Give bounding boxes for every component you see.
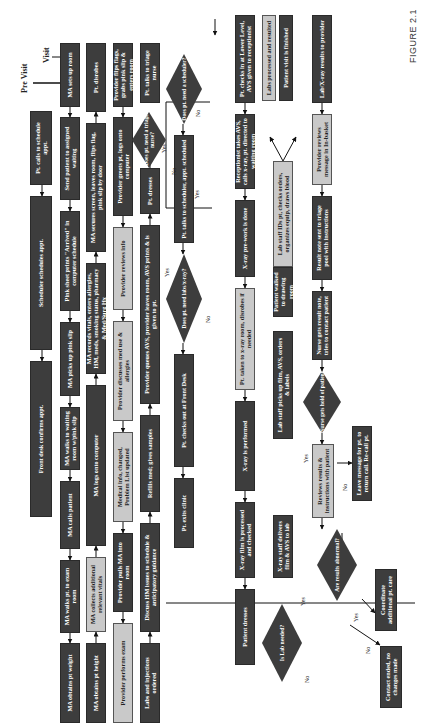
step-pt-dresses: Pt. dresses	[140, 168, 160, 214]
step-provider-reviews-message: Provider reviews message in In-basket	[312, 114, 332, 185]
step-patient-dresses: Patient dresses	[235, 589, 255, 665]
step-pt-talks-to-triage: Pt. talks to triage nurse	[140, 43, 160, 103]
label-no: No	[171, 168, 177, 175]
step-send-to-waiting: Send patient to assigned waiting	[60, 117, 80, 200]
step-ma-secures-screen: MA secures screen, leaves room, flips fl…	[86, 123, 106, 252]
step-coordinate-care: Coordinate additional pt. care	[375, 569, 397, 631]
step-ma-collects-vitals: MA collects additional relevant vitals	[86, 557, 106, 632]
step-pt-checks-in-lower-level: Pt. checks in at Lower Level, AVS given …	[235, 15, 255, 103]
step-leave-message: Leave message for pt. to return call. Re…	[352, 426, 372, 501]
step-ma-obtains-weight: MA obtains pt weight	[60, 643, 80, 723]
label-no: No	[342, 484, 348, 491]
step-pt-checks-out: Pt. checks out at Front Desk	[174, 354, 194, 467]
step-ma-picks-up-slip: MA picks up pink slip	[60, 322, 80, 396]
step-provider-reviews-info: Provider reviews info	[113, 227, 133, 310]
step-labs-processed: Labs processed and resulted	[262, 15, 276, 101]
phase-label-pre-visit: Pre Visit	[20, 64, 29, 93]
label-yes: Yes	[300, 597, 306, 606]
step-lab-staff-draws-blood: Lab staff IDs pt, checks orders, organiz…	[273, 161, 293, 267]
step-pt-calls-to-schedule: Pt. calls to schedule appt.	[30, 111, 52, 185]
step-ma-walks-to-exam: MA walks pt. to exam room	[60, 560, 80, 633]
label-no: No	[205, 316, 211, 323]
decision-reach-patient: Nurse gets hold of patient	[303, 371, 341, 433]
label-yes: Yes	[303, 454, 309, 463]
step-front-desk-confirms: Front desk confirms appt.	[30, 361, 52, 517]
step-ma-logs-onto-computer: MA logs onto computer	[86, 385, 106, 546]
phase-label-visit: Visit	[42, 47, 51, 63]
step-ma-walks-to-waiting: MA walks to waiting room w/pink slip	[60, 407, 80, 470]
step-ma-records-vitals: MA records vitals, enters allergies, HM,…	[86, 263, 106, 374]
decision-lab-needed: Is Lab needed?	[262, 604, 302, 682]
label-no: No	[195, 110, 201, 117]
figure-caption: FIGURE 2.1	[408, 9, 418, 63]
step-receptionist-takes-avs: Receptionist takes AVS, calls x-ray, pt.…	[235, 114, 255, 189]
step-results-to-provider: Lab/X-ray results to provider	[312, 15, 332, 103]
step-patient-visit-finished: Patient visit is finished	[279, 15, 293, 101]
step-scheduler-schedules: Scheduler schedules appt.	[30, 196, 52, 350]
step-lab-staff-picks-up-film: Lab staff picks up film, AVS, orders & l…	[273, 331, 293, 439]
step-pt-talks-to-scheduler: Pt. talks to scheduler, appt. scheduled	[174, 135, 194, 243]
step-xray-prework: X-ray pre-work is done	[235, 200, 255, 277]
step-xray-performed: X-ray is performed	[235, 401, 255, 491]
step-reviews-results-with-patient: Reviews results & instructions with pati…	[312, 444, 334, 518]
step-ma-calls-patient: MA calls patient	[60, 481, 80, 549]
decision-labs-xray: Does pt. need labs/x-ray?	[166, 254, 202, 343]
label-yes: Yes	[353, 613, 359, 622]
step-xray-film-processed: X-ray film is processed and checked	[235, 502, 255, 578]
step-contact-ended: Contact ended, no changes made	[380, 646, 402, 708]
step-provider-enters-room: Provider flips flags, grabs pink slip & …	[113, 43, 133, 107]
label-yes: Yes	[194, 190, 200, 199]
step-provider-greets: Provider greets pt, logs onto computer	[113, 117, 133, 216]
label-yes: Yes	[164, 268, 170, 277]
label-no: No	[365, 647, 371, 654]
step-provider-discusses-meds: Provider discusses med use & allergies	[113, 321, 133, 421]
step-medical-info-updated: Medical info, changed, Problem List upda…	[113, 432, 133, 522]
step-ma-sets-up-room: MA sets up room	[60, 43, 80, 107]
step-result-note-sent: Result note sent to triage pool with ins…	[312, 196, 332, 280]
label-yes: Yes	[161, 144, 167, 153]
step-labs-injections-ordered: Labs and injections ordered	[140, 643, 160, 723]
step-provider-performs-exam: Provider performs exam	[113, 623, 133, 723]
decision-abnormal: Are results abnormal?	[317, 529, 357, 601]
step-provider-pulls-ma: Provider pulls MA into room	[113, 533, 133, 612]
step-pt-disrobes: Pt. disrobes	[86, 43, 106, 112]
step-xray-staff-delivers: X-ray staff delivers film & AVS to lab	[273, 515, 293, 578]
step-discuss-hm: Discuss HM issues to schedule & anticipa…	[140, 523, 160, 632]
step-pink-sheet-prints: Pink sheet prints "Arrived" in computer …	[60, 211, 80, 311]
step-nurse-gets-result: Nurse gets result note, tries to contact…	[312, 291, 332, 360]
step-pt-exits-clinic: Pt. exits clinic	[174, 478, 194, 548]
flowchart-canvas: Pre Visit Visit Pt. calls to schedule ap…	[0, 0, 428, 723]
step-patient-walked-to-drawing: Patient walked to drawing room	[273, 267, 293, 317]
decision-triage-nurse: Does pt. need a triage nurse?	[132, 112, 166, 168]
step-pt-taken-to-xray: Pt. taken to x-ray room, disrobes if nee…	[235, 288, 255, 390]
label-no: No	[304, 676, 310, 683]
step-refills-med: Refills med; gives samples	[140, 415, 160, 512]
step-ma-obtains-height: MA obtains pt height	[86, 643, 106, 723]
step-provider-queues-avs: Provider queues AVS, provider leaves roo…	[140, 225, 160, 404]
